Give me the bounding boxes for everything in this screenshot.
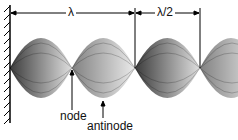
half-wavelength-label: λ/2 [155,6,175,18]
wavelength-label: λ [66,6,76,18]
wave-envelope [10,38,238,98]
wall [4,5,10,124]
antinode-label: antinode [85,120,135,132]
